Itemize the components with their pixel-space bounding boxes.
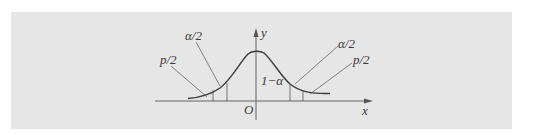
label-left-alpha-half: α/2: [185, 28, 202, 43]
label-left-p-half: p/2: [159, 52, 177, 67]
normal-curve-diagram: α/2 p/2 α/2 p/2 1−α y O x: [0, 0, 549, 135]
x-axis: [155, 99, 373, 104]
leader-left-inner: [196, 42, 220, 86]
label-right-p-half: p/2: [352, 52, 370, 67]
leader-left-outer: [171, 66, 207, 97]
label-right-alpha-half: α/2: [338, 36, 355, 51]
origin-label: O: [244, 102, 254, 117]
y-axis: [254, 28, 259, 120]
label-center-area: 1−α: [261, 73, 284, 88]
y-axis-label: y: [259, 25, 267, 40]
bell-curve: [188, 51, 330, 98]
x-axis-label: x: [361, 103, 368, 118]
leader-right-outer: [310, 63, 352, 94]
y-axis-arrow-icon: [254, 28, 259, 37]
